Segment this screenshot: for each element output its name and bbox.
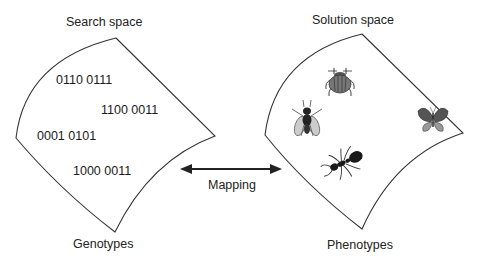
solution-space-title: Solution space bbox=[312, 13, 394, 27]
beetle-icon bbox=[326, 68, 354, 96]
genotype-phenotype-diagram: Search space 0110 0111 1100 0011 0001 01… bbox=[0, 0, 477, 264]
mapping-label: Mapping bbox=[208, 178, 256, 192]
phenotypes-label: Phenotypes bbox=[327, 238, 393, 252]
mapping-arrow bbox=[180, 164, 282, 174]
genotype-code: 1100 0011 bbox=[101, 103, 158, 117]
genotype-code: 0110 0111 bbox=[56, 73, 112, 87]
genotypes-label: Genotypes bbox=[73, 237, 133, 251]
search-space-title: Search space bbox=[66, 15, 142, 29]
fly-icon bbox=[292, 100, 322, 137]
butterfly-icon bbox=[418, 107, 448, 131]
genotype-code: 1000 0011 bbox=[73, 164, 131, 178]
genotype-code: 0001 0101 bbox=[37, 129, 96, 143]
ant-icon bbox=[316, 141, 369, 187]
